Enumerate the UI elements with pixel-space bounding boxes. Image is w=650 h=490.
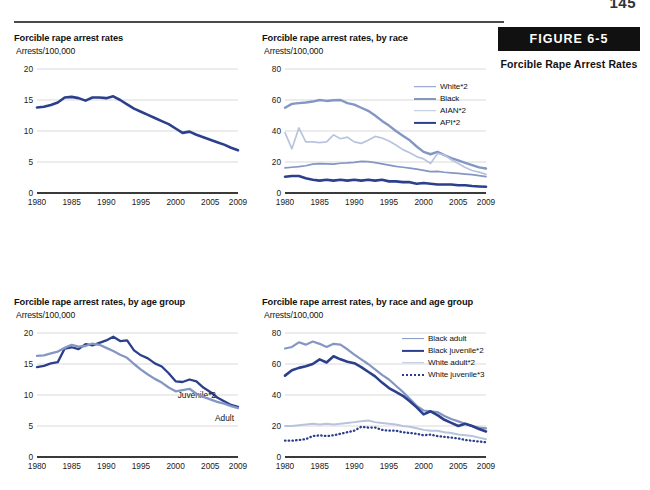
chart-plot-area: 051015201980198519901995200020052009Juve…: [14, 325, 242, 475]
legend-item: Black juvenile*2: [402, 345, 484, 356]
y-axis-tick-label: 20: [24, 64, 34, 74]
legend-swatch-icon: [414, 106, 436, 116]
y-axis-tick-label: 15: [24, 359, 34, 369]
legend-swatch-icon: [414, 94, 436, 104]
x-axis-tick-label: 2000: [414, 197, 433, 207]
chart-plot-area: 0204060801980198519901995200020052009 Wh…: [262, 61, 490, 211]
y-axis-tick-label: 20: [272, 157, 282, 167]
header-divider: [14, 21, 504, 23]
x-axis-tick-label: 1985: [310, 461, 329, 471]
chart-title: Forcible rape arrest rates: [14, 33, 242, 43]
legend-swatch-icon: [402, 346, 424, 356]
x-axis-tick-label: 2009: [229, 197, 248, 207]
series-line: [285, 176, 486, 187]
line-chart-svg: 051015201980198519901995200020052009: [14, 61, 242, 211]
series-inline-label: Adult: [215, 413, 235, 423]
chart-subtitle: Arrests/100,000: [16, 46, 242, 56]
x-axis-tick-label: 2005: [201, 197, 220, 207]
chart-subtitle: Arrests/100,000: [264, 310, 490, 320]
y-axis-tick-label: 40: [272, 390, 282, 400]
legend-label: Black adult: [428, 334, 467, 343]
x-axis-tick-label: 1980: [28, 461, 47, 471]
y-axis-tick-label: 20: [24, 328, 34, 338]
y-axis-tick-label: 10: [24, 390, 34, 400]
y-axis-tick-label: 15: [24, 95, 34, 105]
x-axis-tick-label: 1990: [345, 197, 364, 207]
chart-title: Forcible rape arrest rates, by age group: [14, 297, 242, 307]
legend-item: White*2: [414, 81, 468, 92]
x-axis-tick-label: 1990: [345, 461, 364, 471]
legend-item: White juvenile*3: [402, 369, 484, 380]
y-axis-tick-label: 10: [24, 126, 34, 136]
legend-item: White adult*2: [402, 357, 484, 368]
legend-item: API*2: [414, 117, 468, 128]
x-axis-tick-label: 2005: [201, 461, 220, 471]
legend-label: Black: [440, 94, 459, 103]
y-axis-tick-label: 20: [272, 421, 282, 431]
legend-label: API*2: [440, 118, 460, 127]
legend-swatch-icon: [402, 334, 424, 344]
chart-subtitle: Arrests/100,000: [264, 46, 490, 56]
figure-page: 145 FIGURE 6-5 Forcible Rape Arrest Rate…: [0, 0, 650, 490]
legend-item: Black adult: [402, 333, 484, 344]
x-axis-tick-label: 2005: [449, 197, 468, 207]
y-axis-tick-label: 40: [272, 126, 282, 136]
x-axis-tick-label: 1980: [276, 197, 295, 207]
series-line: [285, 161, 486, 176]
series-line: [285, 128, 486, 174]
chart-plot-area: 051015201980198519901995200020052009: [14, 61, 242, 211]
x-axis-tick-label: 1995: [132, 461, 151, 471]
x-axis-tick-label: 1990: [97, 461, 116, 471]
figure-label-block: FIGURE 6-5 Forcible Rape Arrest Rates: [498, 27, 640, 70]
chart-title: Forcible rape arrest rates, by race: [262, 33, 490, 43]
x-axis-tick-label: 1985: [62, 197, 81, 207]
y-axis-tick-label: 80: [272, 328, 282, 338]
chart-title: Forcible rape arrest rates, by race and …: [262, 297, 490, 307]
x-axis-tick-label: 2000: [414, 461, 433, 471]
chart-legend: White*2BlackAIAN*2API*2: [414, 81, 468, 129]
legend-swatch-icon: [414, 118, 436, 128]
legend-swatch-icon: [402, 358, 424, 368]
y-axis-tick-label: 5: [28, 157, 33, 167]
x-axis-tick-label: 2009: [477, 197, 496, 207]
x-axis-tick-label: 1985: [62, 461, 81, 471]
legend-label: AIAN*2: [440, 106, 466, 115]
y-axis-tick-label: 5: [28, 421, 33, 431]
x-axis-tick-label: 2009: [229, 461, 248, 471]
y-axis-tick-label: 60: [272, 359, 282, 369]
chart-panel-by-race-and-age-group: Forcible rape arrest rates, by race and …: [262, 297, 490, 475]
legend-label: Black juvenile*2: [428, 346, 484, 355]
y-axis-tick-label: 60: [272, 95, 282, 105]
y-axis-tick-label: 80: [272, 64, 282, 74]
x-axis-tick-label: 1995: [380, 461, 399, 471]
x-axis-tick-label: 1980: [276, 461, 295, 471]
legend-item: Black: [414, 93, 468, 104]
chart-panel-by-race: Forcible rape arrest rates, by race Arre…: [262, 33, 490, 211]
x-axis-tick-label: 1990: [97, 197, 116, 207]
line-chart-svg: 051015201980198519901995200020052009Juve…: [14, 325, 242, 475]
chart-plot-area: 0204060801980198519901995200020052009 Bl…: [262, 325, 490, 475]
legend-label: White juvenile*3: [428, 370, 484, 379]
figure-caption: Forcible Rape Arrest Rates: [498, 58, 640, 70]
x-axis-tick-label: 2000: [166, 197, 185, 207]
x-axis-tick-label: 2000: [166, 461, 185, 471]
x-axis-tick-label: 1980: [28, 197, 47, 207]
chart-panel-overall: Forcible rape arrest rates Arrests/100,0…: [14, 33, 242, 211]
legend-swatch-icon: [414, 82, 436, 92]
chart-legend: Black adultBlack juvenile*2White adult*2…: [402, 333, 484, 381]
x-axis-tick-label: 1995: [380, 197, 399, 207]
legend-label: White adult*2: [428, 358, 475, 367]
legend-item: AIAN*2: [414, 105, 468, 116]
page-number: 145: [609, 0, 636, 11]
series-line: [37, 96, 238, 150]
legend-label: White*2: [440, 82, 468, 91]
x-axis-tick-label: 1985: [310, 197, 329, 207]
x-axis-tick-label: 2009: [477, 461, 496, 471]
x-axis-tick-label: 1995: [132, 197, 151, 207]
legend-swatch-icon: [402, 370, 424, 380]
chart-panel-by-age-group: Forcible rape arrest rates, by age group…: [14, 297, 242, 475]
figure-number-bar: FIGURE 6-5: [498, 27, 640, 51]
chart-subtitle: Arrests/100,000: [16, 310, 242, 320]
x-axis-tick-label: 2005: [449, 461, 468, 471]
